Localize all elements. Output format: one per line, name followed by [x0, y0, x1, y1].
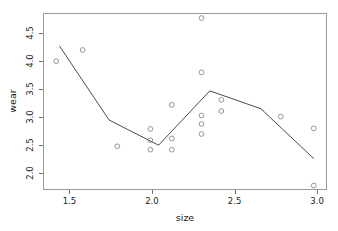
y-axis-title: wear: [8, 89, 18, 112]
x-tick-label: 2.0: [145, 197, 159, 206]
x-tick-mark: [152, 190, 153, 194]
y-tick-mark: [39, 145, 43, 146]
x-tick-label: 3.0: [310, 197, 324, 206]
fitted-line: [60, 46, 314, 159]
data-point: [169, 136, 174, 141]
data-point: [80, 48, 85, 53]
x-tick-mark: [235, 190, 236, 194]
x-tick-label: 2.5: [228, 197, 242, 206]
data-point: [199, 132, 204, 137]
data-point: [278, 114, 283, 119]
y-tick-label: 4.0: [26, 54, 35, 68]
data-point: [115, 144, 120, 149]
y-tick-label: 4.5: [26, 26, 35, 40]
y-tick-mark: [39, 89, 43, 90]
plot-canvas: [0, 0, 338, 231]
y-tick-label: 3.5: [26, 82, 35, 96]
data-point: [311, 183, 316, 188]
data-point: [169, 102, 174, 107]
scatter-points: [54, 16, 316, 188]
data-point: [219, 109, 224, 114]
x-tick-mark: [317, 190, 318, 194]
x-tick-mark: [69, 190, 70, 194]
data-point: [54, 59, 59, 64]
y-tick-label: 2.5: [26, 138, 35, 152]
y-tick-mark: [39, 33, 43, 34]
y-tick-mark: [39, 117, 43, 118]
x-axis-title: size: [176, 213, 194, 223]
y-tick-label: 2.0: [26, 166, 35, 180]
y-tick-mark: [39, 61, 43, 62]
data-point: [148, 127, 153, 132]
data-point: [148, 147, 153, 152]
data-point: [169, 147, 174, 152]
x-tick-label: 1.5: [63, 197, 77, 206]
data-point: [199, 122, 204, 127]
data-point: [199, 113, 204, 118]
y-tick-mark: [39, 173, 43, 174]
data-point: [311, 126, 316, 131]
data-point: [219, 97, 224, 102]
data-point: [199, 70, 204, 75]
y-tick-label: 3.0: [26, 110, 35, 124]
chart-container: 1.52.02.53.0 2.02.53.03.54.04.5 size wea…: [0, 0, 338, 231]
data-point: [199, 16, 204, 21]
fitted-line-path: [60, 46, 314, 159]
